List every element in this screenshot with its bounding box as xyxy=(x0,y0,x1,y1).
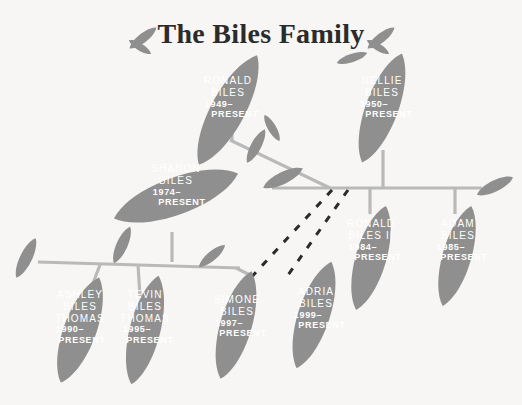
family-tree-canvas xyxy=(0,0,522,405)
decor-leaf-nellie-top xyxy=(335,49,368,67)
person-leaf-shapes xyxy=(46,47,486,388)
leaf-node-simone[interactable] xyxy=(205,267,266,383)
leaf-node-shanon[interactable] xyxy=(108,156,245,236)
leaf-node-adria[interactable] xyxy=(282,257,347,373)
branch-lower-to-tevin xyxy=(138,265,140,296)
decor-leaf-lower-left xyxy=(11,236,41,281)
leaf-node-tevin[interactable] xyxy=(117,272,174,388)
branch-lines xyxy=(38,128,482,296)
leaf-node-ronald2[interactable] xyxy=(341,202,400,314)
title-leaf-left xyxy=(127,24,160,57)
decor-leaf-ronald-branch xyxy=(243,127,270,165)
title-leaf-right xyxy=(365,24,398,57)
leaf-node-adam[interactable] xyxy=(429,202,485,310)
decorative-leaves xyxy=(11,24,515,281)
leaf-node-ashley[interactable] xyxy=(46,272,115,388)
dashed-link-to-adria xyxy=(286,190,348,278)
dashed-link-to-simone xyxy=(246,190,332,283)
decor-leaf-lower-mid xyxy=(109,224,135,265)
decor-leaf-spine-right xyxy=(475,172,516,200)
